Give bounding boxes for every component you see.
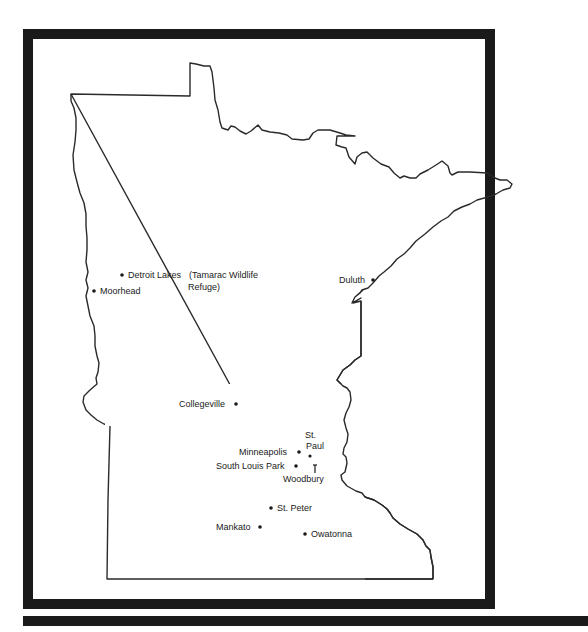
tamarac-label-line1: (Tamarac Wildlife xyxy=(189,270,258,280)
duluth-marker xyxy=(371,278,375,282)
moorhead-marker xyxy=(92,289,96,293)
st-peter-label: St. Peter xyxy=(277,503,312,513)
south-louis-park-label: South Louis Park xyxy=(216,461,285,471)
st-paul-marker xyxy=(308,454,311,457)
st-paul-label-line1: St. xyxy=(305,430,316,440)
detroit-lakes-marker xyxy=(120,273,124,277)
collegeville-label: Collegeville xyxy=(179,399,225,409)
moorhead-label: Moorhead xyxy=(100,286,141,296)
st-peter-marker xyxy=(269,506,273,510)
south-louis-park-marker xyxy=(294,464,298,468)
tamarac-label-line2: Refuge) xyxy=(188,282,220,292)
woodbury-label: Woodbury xyxy=(283,474,324,484)
owatonna-label: Owatonna xyxy=(311,529,352,539)
detroit-lakes-label: Detroit Lakes xyxy=(128,270,182,280)
owatonna-marker xyxy=(303,532,307,536)
mankato-label: Mankato xyxy=(216,522,251,532)
mankato-marker xyxy=(258,525,262,529)
duluth-label: Duluth xyxy=(339,275,365,285)
minneapolis-marker xyxy=(297,450,301,454)
st-paul-label-line2: Paul xyxy=(306,441,324,451)
mask xyxy=(105,384,365,584)
minnesota-map-clean: Detroit Lakes (Tamarac Wildlife Refuge) … xyxy=(0,0,588,632)
collegeville-marker xyxy=(234,402,238,406)
minneapolis-label: Minneapolis xyxy=(239,447,288,457)
